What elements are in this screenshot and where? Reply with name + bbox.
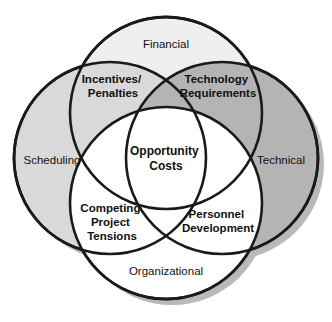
label-financial: Financial bbox=[143, 38, 189, 50]
label-organizational: Organizational bbox=[129, 265, 203, 277]
venn-diagram-root: Financial Scheduling Technical Organizat… bbox=[0, 0, 332, 322]
venn-diagram-svg: Financial Scheduling Technical Organizat… bbox=[0, 0, 332, 322]
label-technical: Technical bbox=[257, 154, 305, 166]
label-scheduling: Scheduling bbox=[24, 154, 81, 166]
